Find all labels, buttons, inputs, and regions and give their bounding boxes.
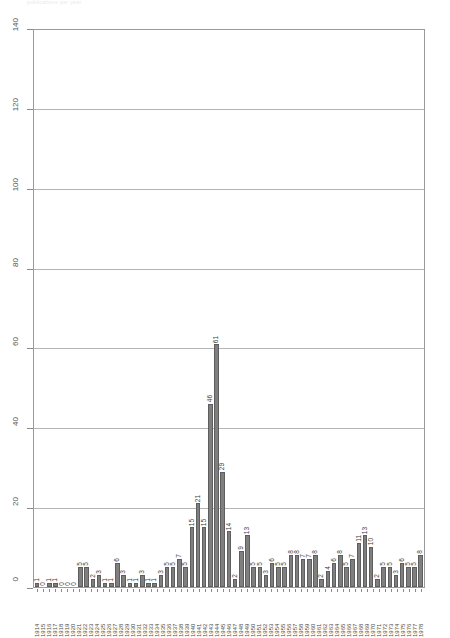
bar[interactable] [47,583,51,587]
bar[interactable] [115,563,119,587]
bar[interactable] [165,567,169,587]
bar[interactable] [406,567,410,587]
x-tick-label: 1978 [418,589,424,637]
bar-chart: 020406080100120140 101100055231163113113… [0,0,450,638]
bar[interactable] [91,579,95,587]
bar[interactable] [183,567,187,587]
bar-series: 1011000552311631131135575152115466129142… [34,30,424,587]
x-axis-labels: 1914191519161917191819191920192119221923… [34,589,424,637]
bar[interactable] [152,583,156,587]
bar[interactable] [78,567,82,587]
bar[interactable] [400,563,404,587]
bar[interactable] [159,575,163,587]
bar[interactable] [394,575,398,587]
bar[interactable] [270,563,274,587]
bar[interactable] [338,555,342,587]
bar[interactable] [233,579,237,587]
bar[interactable] [375,579,379,587]
bar[interactable] [381,567,385,587]
bar[interactable] [295,555,299,587]
bar[interactable] [344,567,348,587]
bar[interactable] [276,567,280,587]
bar[interactable] [264,575,268,587]
bar[interactable] [134,583,138,587]
bar[interactable] [239,551,243,587]
y-tick-label: 80 [11,258,21,267]
bar[interactable] [202,527,206,587]
bar[interactable] [412,567,416,587]
bar[interactable] [227,531,231,587]
bar[interactable] [190,527,194,587]
bar[interactable] [289,555,293,587]
bar[interactable] [208,404,212,587]
y-tick-label: 40 [11,417,21,426]
bar[interactable] [146,583,150,587]
bar-value-label: 8 [417,550,424,554]
bar[interactable] [109,583,113,587]
bar[interactable] [282,567,286,587]
x-label-cell: 1978 [418,589,424,637]
y-axis: 020406080100120140 [0,0,33,638]
bar-column[interactable]: 8 [418,30,424,587]
y-tick-label: 140 [11,18,21,31]
y-tick-label: 120 [11,98,21,111]
bar[interactable] [369,547,373,587]
bar[interactable] [251,567,255,587]
bar[interactable] [418,555,422,587]
bar[interactable] [350,559,354,587]
y-tick-label: 20 [11,497,21,506]
bar[interactable] [332,563,336,587]
y-tick-label: 60 [11,337,21,346]
bar[interactable] [301,559,305,587]
y-tick-mark [27,588,33,589]
bar[interactable] [326,571,330,587]
bar[interactable] [319,579,323,587]
bar[interactable] [196,503,200,587]
bar[interactable] [357,543,361,587]
y-tick-label: 0 [11,577,21,581]
bar[interactable] [313,555,317,587]
bar[interactable] [171,567,175,587]
bar[interactable] [307,559,311,587]
bar[interactable] [128,583,132,587]
bar[interactable] [103,583,107,587]
y-tick-label: 100 [11,178,21,191]
